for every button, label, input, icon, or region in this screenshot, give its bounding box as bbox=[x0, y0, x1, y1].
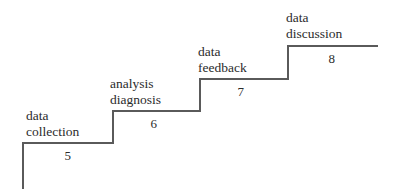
staircase-diagram: data collection 5 analysis diagnosis 6 d… bbox=[0, 0, 398, 189]
step-label-line1: data bbox=[286, 10, 342, 26]
step-number-8: 8 bbox=[329, 51, 336, 67]
step-label-line1: data bbox=[26, 108, 79, 124]
step-label-line2: collection bbox=[26, 124, 79, 140]
step-label-data-feedback: data feedback bbox=[198, 44, 247, 75]
step-label-line1: data bbox=[198, 44, 247, 60]
step-label-line1: analysis bbox=[110, 76, 161, 92]
step-label-line2: discussion bbox=[286, 26, 342, 42]
step-number-5: 5 bbox=[65, 148, 72, 164]
step-number-7: 7 bbox=[238, 84, 245, 100]
step-number-6: 6 bbox=[151, 116, 158, 132]
step-label-data-discussion: data discussion bbox=[286, 10, 342, 41]
step-label-line2: feedback bbox=[198, 60, 247, 76]
step-label-data-collection: data collection bbox=[26, 108, 79, 139]
step-label-analysis-diagnosis: analysis diagnosis bbox=[110, 76, 161, 107]
step-label-line2: diagnosis bbox=[110, 92, 161, 108]
